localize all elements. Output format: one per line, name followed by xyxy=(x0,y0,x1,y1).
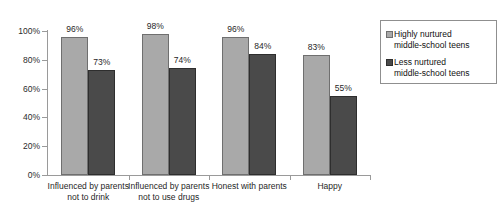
y-axis-tick-label: 0% xyxy=(0,171,40,179)
y-axis-tick xyxy=(42,60,47,61)
y-axis-tick xyxy=(42,146,47,147)
y-axis-tick xyxy=(42,31,47,32)
bar xyxy=(169,68,196,175)
bar-value-label: 96% xyxy=(216,25,255,34)
bar-value-label: 96% xyxy=(55,25,94,34)
x-axis-tick xyxy=(290,176,291,180)
bar xyxy=(222,37,249,175)
bar-value-label: 73% xyxy=(82,58,121,67)
bar xyxy=(142,34,169,175)
bar xyxy=(88,70,115,175)
bar-value-label: 74% xyxy=(163,56,202,65)
bar xyxy=(249,54,276,175)
y-axis-tick-label: 20% xyxy=(0,142,40,150)
bar-value-label: 98% xyxy=(136,22,175,31)
x-axis-tick xyxy=(129,176,130,180)
y-axis-tick-label: 80% xyxy=(0,56,40,64)
bar-value-label: 83% xyxy=(297,43,336,52)
bar-value-label: 84% xyxy=(243,42,282,51)
y-axis-tick-label: 40% xyxy=(0,113,40,121)
category-label: Influenced by parents not to drink xyxy=(44,181,133,202)
bar xyxy=(303,55,330,175)
legend-swatch-icon xyxy=(386,59,393,66)
category-label: Happy xyxy=(286,181,375,192)
y-axis-tick xyxy=(42,117,47,118)
x-axis-tick xyxy=(209,176,210,180)
bar-value-label: 55% xyxy=(324,84,363,93)
chart-legend: Highly nurtured middle-school teens Less… xyxy=(380,20,497,84)
legend-item-0[interactable]: Highly nurtured middle-school teens xyxy=(386,29,470,51)
legend-item-1[interactable]: Less nurtured middle-school teens xyxy=(386,57,470,79)
plot-area xyxy=(48,31,370,175)
y-axis-tick-label: 60% xyxy=(0,85,40,93)
legend-item-label: Less nurtured middle-school teens xyxy=(394,57,470,79)
y-axis-tick xyxy=(42,89,47,90)
bar-chart: 100%80%60%40%20%0% 96%73%98%74%96%84%83%… xyxy=(0,0,499,211)
y-axis-tick-label: 100% xyxy=(0,27,40,35)
x-axis-tick xyxy=(370,176,371,180)
legend-swatch-icon xyxy=(386,31,393,38)
category-label: Honest with parents xyxy=(205,181,294,192)
bar xyxy=(330,96,357,175)
category-label: Influenced by parents not to use drugs xyxy=(125,181,214,202)
legend-item-label: Highly nurtured middle-school teens xyxy=(394,29,470,51)
y-axis-tick xyxy=(42,175,47,176)
